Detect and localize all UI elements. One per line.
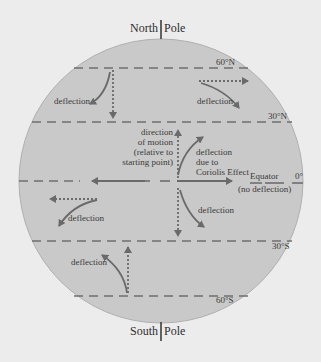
latitude-30s-label: 30°S [272,241,290,251]
coriolis-deflection-label: deflection due to Coriolis Effect [196,147,249,177]
coriolis-line-3: Coriolis Effect [196,167,249,177]
direction-line-2: of motion [122,137,173,147]
direction-line-1: direction [122,127,173,137]
equator-degree-label: 0° [295,171,303,181]
deflection-label-nw: deflection [54,96,90,106]
south-pole-label-left: South [130,325,158,338]
direction-line-3: (relative to [122,147,173,157]
north-pole-label-left: North [130,22,158,35]
deflection-label-se: deflection [198,205,234,215]
coriolis-line-1: deflection [196,147,249,157]
deflection-label-sw: deflection [71,257,107,267]
direction-of-motion-label: direction of motion (relative to startin… [122,127,173,167]
north-pole-label-right: Pole [164,22,185,35]
deflection-label-w: deflection [68,213,104,223]
latitude-60n-label: 60°N [216,57,235,67]
coriolis-line-2: due to [196,157,249,167]
globe-diagram [0,0,321,362]
equator-note: (no deflection) [238,184,291,194]
direction-line-4: starting point) [122,157,173,167]
equator-label: Equator [250,171,279,181]
south-pole-label-right: Pole [164,325,185,338]
latitude-30n-label: 30°N [268,111,287,121]
deflection-label-ne: deflection [197,96,233,106]
latitude-60s-label: 60°S [216,295,234,305]
